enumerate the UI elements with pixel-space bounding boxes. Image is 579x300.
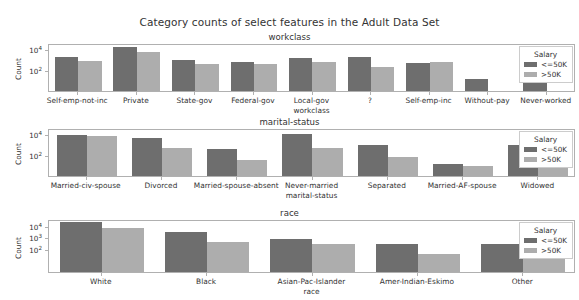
bar-group [60,221,144,272]
x-tick-label: Self-emp-not-inc [47,96,108,105]
plot-axes [48,129,575,177]
bar [418,254,460,272]
x-tick-label: Never-worked [520,96,571,105]
bar [289,58,312,91]
x-tick-mark [462,177,463,180]
legend-item[interactable]: >50K [524,155,567,164]
bar [312,62,335,91]
bar [237,160,267,176]
legend-item[interactable]: <=50K [524,145,567,154]
figure-title: Category counts of select features in th… [0,16,579,28]
y-tick-mark [45,135,48,136]
y-tick-mark [45,227,48,228]
legend-item[interactable]: >50K [524,246,567,255]
bar [172,60,195,91]
bar [55,57,78,91]
x-tick-mark [136,92,137,95]
bar [87,136,117,176]
bar [358,145,388,176]
x-tick-label: Married-civ-spouse [51,181,121,190]
bar-group [231,45,278,91]
x-tick-mark [429,92,430,95]
bar [463,166,493,176]
bar [132,138,162,176]
x-tick-mark [194,92,195,95]
plot-axes [48,44,575,92]
x-tick-mark [417,273,418,276]
bar [137,52,160,91]
legend-item[interactable]: >50K [524,70,567,79]
x-tick-mark [236,177,237,180]
bar [465,79,488,91]
bar-group [348,45,395,91]
bar [78,61,101,91]
x-tick-label: Married-spouse-absent [194,181,279,190]
legend: Salary<=50K>50K [519,222,573,259]
y-axis-label: Count [14,58,23,80]
x-tick-mark [370,92,371,95]
legend-item[interactable]: <=50K [524,60,567,69]
legend-swatch-icon [524,62,537,67]
bar [207,242,249,272]
bar [312,148,342,176]
x-tick-mark [522,273,523,276]
legend-swatch-icon [524,248,537,253]
legend-label: <=50K [541,60,567,69]
bar [207,149,237,176]
x-tick-label: Without-pay [465,96,510,105]
legend-label: <=50K [541,236,567,245]
bar [282,134,312,176]
x-tick-label: Divorced [145,181,178,190]
bar [165,232,207,272]
x-tick-mark [86,177,87,180]
figure-canvas: Category counts of select features in th… [0,0,579,300]
x-tick-label: Asian-Pac-Islander [278,277,346,286]
plot-area [49,45,574,91]
y-tick-mark [45,156,48,157]
x-tick-label: Amer-Indian-Eskimo [380,277,454,286]
bar-group [113,45,160,91]
x-tick-mark [101,273,102,276]
bar [523,82,546,91]
x-tick-label: Black [196,277,216,286]
legend-item[interactable]: <=50K [524,236,567,245]
x-tick-mark [253,92,254,95]
subplot-title: workclass [0,32,579,42]
plot-area [49,221,574,272]
bar [406,63,429,91]
legend-title: Salary [524,135,567,144]
legend-label: >50K [541,70,561,79]
legend-title: Salary [524,50,567,59]
x-tick-label: Separated [368,181,406,190]
legend: Salary<=50K>50K [519,131,573,168]
subplot-race: race102103104CountWhiteBlackAsian-Pac-Is… [0,208,579,300]
bar [312,244,354,272]
x-axis-label: marital-status [286,191,338,200]
subplot-title: race [0,208,579,218]
x-tick-label: Married-AF-spouse [428,181,497,190]
bar-group [358,130,418,176]
x-tick-mark [312,92,313,95]
bar [162,148,192,176]
subplot-title: marital-status [0,117,579,127]
bar-group [55,45,102,91]
bar [60,222,102,272]
y-tick-label: 104 [8,223,42,232]
bar-group [207,130,267,176]
x-axis-label: workclass [293,106,329,115]
x-tick-mark [312,177,313,180]
y-tick-mark [45,238,48,239]
x-tick-label: White [90,277,112,286]
bar-group [282,130,342,176]
plot-area [49,130,574,176]
y-axis-label: Count [14,143,23,165]
x-tick-mark [77,92,78,95]
bar [231,62,254,91]
x-tick-mark [487,92,488,95]
legend-label: >50K [541,246,561,255]
x-tick-mark [537,177,538,180]
bar [254,64,277,91]
bar [388,157,418,176]
x-tick-mark [546,92,547,95]
bar-group [57,130,117,176]
